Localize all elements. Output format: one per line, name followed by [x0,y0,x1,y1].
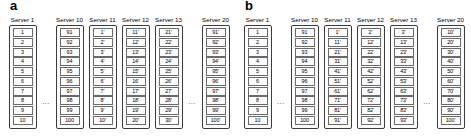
chunk-cell: 10 [248,116,268,125]
chunk-cell: 95 [295,67,315,76]
server-chunk-stack: 1'2'3'4'5'6'7'8'9'10' [89,25,117,129]
server-column: Server 1321'22'23'24'25'26'27'28'29'30' [152,16,185,129]
chunk-cell: 21' [159,28,179,37]
column-ellipsis: ... [420,98,434,105]
server-chunk-stack: 91'92'93'94'95'96'97'98'99'100' [202,25,230,129]
chunk-cell: 100' [441,116,461,125]
panel-b: bServer 112345678910...Server 1091929394… [235,0,470,136]
chunk-cell: 19' [126,106,146,115]
chunk-cell: 83' [394,106,414,115]
server-column: Server 10919293949596979899100 [53,16,86,129]
chunk-cell: 97' [206,87,226,96]
chunk-cell: 17' [126,87,146,96]
chunk-cell: 93 [295,48,315,57]
chunk-cell: 53' [394,77,414,86]
chunk-cell: 90' [441,106,461,115]
chunk-cell: 11' [126,28,146,37]
chunk-cell: 25' [159,67,179,76]
chunk-cell: 2 [248,38,268,47]
column-ellipsis: ... [274,98,288,105]
chunk-cell: 32' [361,57,381,66]
chunk-cell: 92 [295,38,315,47]
chunk-cell: 93 [60,48,80,57]
chunk-cell: 12' [126,38,146,47]
chunk-cell: 91 [295,28,315,37]
chunk-cell: 97 [295,87,315,96]
chunk-cell: 14' [126,57,146,66]
server-column-title: Server 12 [122,16,149,23]
server-column: Server 2091'92'93'94'95'96'97'98'99'100' [199,16,232,129]
chunk-cell: 2' [93,38,113,47]
chunk-cell: 94 [60,57,80,66]
server-column-title: Server 1 [246,16,269,23]
chunk-cell: 95 [60,67,80,76]
chunk-cell: 96 [295,77,315,86]
chunk-cell: 100' [206,116,226,125]
chunk-cell: 7 [248,87,268,96]
chunk-cell: 18' [126,96,146,105]
chunk-cell: 23' [394,48,414,57]
chunk-cell: 99' [206,106,226,115]
chunk-cell: 92 [60,38,80,47]
column-ellipsis: ... [39,98,53,105]
chunk-cell: 3 [13,48,33,57]
chunk-cell: 4 [248,57,268,66]
server-column: Server 112345678910 [6,16,39,129]
chunk-cell: 1 [248,28,268,37]
chunk-cell: 92' [361,116,381,125]
chunk-cell: 31' [328,57,348,66]
server-chunk-stack: 2'12'22'32'42'52'62'72'82'92' [357,25,385,129]
chunk-cell: 100 [60,116,80,125]
chunk-cell: 7' [93,87,113,96]
chunk-cell: 50' [441,67,461,76]
server-column: Server 122'12'22'32'42'52'62'72'82'92' [354,16,387,129]
chunk-cell: 8' [93,96,113,105]
chunk-cell: 40' [441,57,461,66]
chunk-cell: 13' [394,38,414,47]
chunk-cell: 61' [328,87,348,96]
chunk-cell: 43' [394,67,414,76]
chunk-cell: 52' [361,77,381,86]
chunk-cell: 80' [441,96,461,105]
chunk-cell: 5 [248,67,268,76]
chunk-cell: 81' [328,106,348,115]
chunk-cell: 2' [361,28,381,37]
chunk-cell: 10 [13,116,33,125]
chunk-cell: 51' [328,77,348,86]
chunk-cell: 11' [328,38,348,47]
chunk-cell: 3' [394,28,414,37]
chunk-cell: 28' [159,96,179,105]
server-column-title: Server 11 [89,16,115,23]
server-chunk-stack: 12345678910 [9,25,37,129]
server-chunk-stack: 919293949596979899100 [291,25,319,129]
chunk-cell: 70' [441,87,461,96]
server-column-title: Server 20 [437,16,464,23]
chunk-cell: 9 [248,106,268,115]
panel-label: a [10,0,17,13]
chunk-cell: 33' [394,57,414,66]
chunk-cell: 3 [248,48,268,57]
panel-label: b [245,0,253,13]
server-column-title: Server 13 [155,16,182,23]
server-column-title: Server 20 [202,16,229,23]
chunk-cell: 24' [159,57,179,66]
column-ellipsis: ... [185,98,199,105]
server-column-title: Server 1 [11,16,34,23]
server-chunk-stack: 919293949596979899100 [56,25,84,129]
chunk-cell: 95' [206,67,226,76]
chunk-cell: 29' [159,106,179,115]
server-column: Server 111'2'3'4'5'6'7'8'9'10' [86,16,119,129]
server-chunk-stack: 12345678910 [244,25,272,129]
chunk-cell: 23' [159,48,179,57]
chunk-cell: 7 [13,87,33,96]
server-column-title: Server 12 [357,16,384,23]
chunk-cell: 42' [361,67,381,76]
server-column-title: Server 10 [291,16,318,23]
server-chunk-stack: 11'12'13'14'15'16'17'18'19'20' [122,25,150,129]
chunk-cell: 99 [295,106,315,115]
chunk-cell: 91 [60,28,80,37]
chunk-cell: 96 [60,77,80,86]
chunk-cell: 98 [295,96,315,105]
chunk-cell: 16' [126,77,146,86]
server-column-list: Server 112345678910...Server 10919293949… [6,16,234,134]
